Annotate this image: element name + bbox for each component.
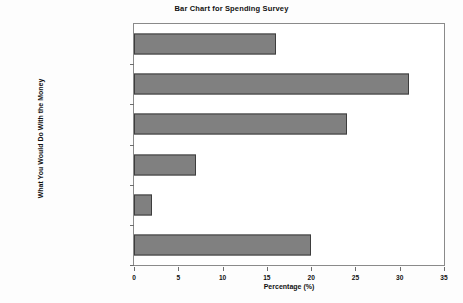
x-axis-tick: [267, 267, 268, 271]
bar[interactable]: [134, 74, 409, 95]
x-axis-tick-label: 20: [299, 274, 323, 281]
plot-area: Spend on essentialsSavePay debtOtherGive…: [133, 23, 445, 266]
x-axis-tick-label: 5: [166, 274, 190, 281]
bar-row: Buy a luxury item, vacation,or gift: [134, 225, 444, 265]
y-axis-title: What You Would Do With the Money: [37, 51, 44, 226]
bar[interactable]: [134, 114, 347, 135]
x-axis-tick-label: 25: [343, 274, 367, 281]
bar-row: Pay debt: [134, 104, 444, 144]
bar[interactable]: [134, 194, 152, 215]
x-axis-tick: [134, 267, 135, 271]
x-axis-tick: [178, 267, 179, 271]
bar[interactable]: [134, 154, 196, 175]
x-axis-tick: [223, 267, 224, 271]
x-axis-tick-label: 30: [388, 274, 412, 281]
x-axis-tick: [400, 267, 401, 271]
bar-chart: Bar Chart for Spending Survey What You W…: [0, 0, 463, 303]
y-axis-tick: [130, 265, 134, 266]
bar-row: Spend on essentials: [134, 24, 444, 64]
x-axis-tick: [444, 267, 445, 271]
x-axis-tick-label: 0: [122, 274, 146, 281]
bar-row: Give it to charity: [134, 185, 444, 225]
x-axis-tick: [311, 267, 312, 271]
bar-row: Other: [134, 145, 444, 185]
x-axis-tick: [355, 267, 356, 271]
bar[interactable]: [134, 34, 276, 55]
bar-row: Save: [134, 64, 444, 104]
x-axis-tick-label: 15: [255, 274, 279, 281]
chart-title: Bar Chart for Spending Survey: [0, 4, 463, 13]
bar[interactable]: [134, 234, 311, 255]
x-axis-title: Percentage (%): [133, 283, 445, 290]
x-axis-tick-label: 35: [432, 274, 456, 281]
x-axis-tick-label: 10: [211, 274, 235, 281]
